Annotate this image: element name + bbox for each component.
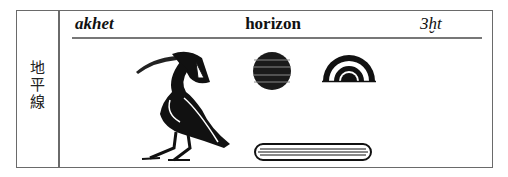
ibis-icon [132,48,237,163]
sun-disk-icon [252,51,292,91]
side-char-2: 平 [17,77,58,94]
rising-sun-arc-icon [322,53,376,83]
egyptological-transliteration: 3ḫt [420,14,442,34]
header-rule [72,37,482,39]
horizontal-bar-icon [254,143,372,161]
side-char-1: 地 [17,60,58,77]
side-char-3: 線 [17,94,58,111]
side-label: 地 平 線 [17,60,58,111]
